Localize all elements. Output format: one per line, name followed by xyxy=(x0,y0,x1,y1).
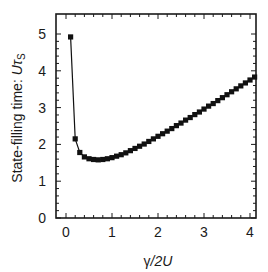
data-point-marker xyxy=(77,150,82,155)
x-tick-labels: 01234 xyxy=(62,224,254,240)
data-point-marker xyxy=(132,146,137,151)
y-axis-title: State-filling time: UτS xyxy=(9,53,27,183)
data-point-marker xyxy=(82,154,87,159)
data-point-marker xyxy=(86,156,91,161)
data-point-marker xyxy=(215,98,220,103)
data-point-marker xyxy=(178,120,183,125)
data-point-marker xyxy=(183,118,188,123)
y-tick-label: 4 xyxy=(38,63,46,79)
y-tick-label: 3 xyxy=(38,100,46,116)
data-point-marker xyxy=(238,83,243,88)
data-point-marker xyxy=(211,101,216,106)
series-line xyxy=(71,37,255,160)
data-point-marker xyxy=(169,126,174,131)
data-point-marker xyxy=(247,77,252,82)
data-point-marker xyxy=(68,34,73,39)
data-point-marker xyxy=(224,92,229,97)
data-point-marker xyxy=(109,155,114,160)
data-point-marker xyxy=(100,157,105,162)
data-series xyxy=(68,34,257,162)
data-point-marker xyxy=(96,157,101,162)
data-point-marker xyxy=(155,134,160,139)
y-tick-label: 2 xyxy=(38,136,46,152)
y-tick-label: 0 xyxy=(38,210,46,226)
data-point-marker xyxy=(114,154,119,159)
y-tick-label: 1 xyxy=(38,173,46,189)
data-point-marker xyxy=(137,144,142,149)
data-point-marker xyxy=(174,123,179,128)
axis-ticks xyxy=(56,14,256,218)
data-point-marker xyxy=(146,139,151,144)
y-tick-labels: 012345 xyxy=(38,26,46,226)
y-tick-label: 5 xyxy=(38,26,46,42)
data-point-marker xyxy=(220,95,225,100)
data-point-marker xyxy=(165,129,170,134)
data-point-marker xyxy=(197,109,202,114)
x-axis-title: γ/2U xyxy=(144,253,174,269)
data-point-marker xyxy=(128,148,133,153)
data-point-marker xyxy=(201,106,206,111)
chart: 01234 012345 γ/2U State-filling time: Uτ… xyxy=(0,0,268,272)
data-point-marker xyxy=(142,141,147,146)
data-point-marker xyxy=(243,80,248,85)
data-point-marker xyxy=(229,89,234,94)
data-point-marker xyxy=(188,115,193,120)
data-point-marker xyxy=(123,150,128,155)
x-tick-label: 1 xyxy=(108,224,116,240)
x-tick-label: 0 xyxy=(62,224,70,240)
x-tick-label: 3 xyxy=(200,224,208,240)
data-point-marker xyxy=(91,157,96,162)
data-point-marker xyxy=(192,112,197,117)
data-point-marker xyxy=(105,156,110,161)
data-point-marker xyxy=(73,136,78,141)
data-point-marker xyxy=(119,152,124,157)
x-tick-label: 2 xyxy=(154,224,162,240)
data-point-marker xyxy=(234,86,239,91)
data-point-marker xyxy=(151,136,156,141)
data-point-marker xyxy=(252,74,257,79)
x-tick-label: 4 xyxy=(246,224,254,240)
plot-frame xyxy=(56,14,256,218)
data-point-marker xyxy=(206,104,211,109)
data-point-marker xyxy=(160,131,165,136)
